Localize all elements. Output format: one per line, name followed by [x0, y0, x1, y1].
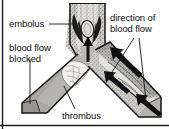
label-thrombus: thrombus	[62, 111, 101, 122]
label-embolus: embolus	[9, 19, 44, 30]
anatomical-diagram-figure: embolus blood flow blocked direction of …	[0, 0, 169, 129]
label-blood-flow-blocked: blood flow blocked	[9, 43, 51, 64]
label-direction-of-blood-flow: direction of blood flow	[110, 13, 155, 34]
